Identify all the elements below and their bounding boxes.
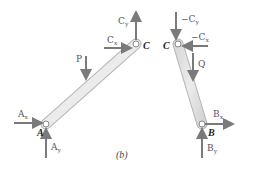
point-b-label: B — [207, 127, 215, 138]
label-cy: Cy — [118, 16, 129, 28]
label-bx: Bx — [213, 109, 224, 120]
point-a-label: A — [36, 127, 44, 138]
member-cb — [175, 41, 205, 127]
label-q: Q — [198, 59, 205, 69]
diagram-canvas: Ax Ay Cx Cy P A C −Cy −Cx Q Bx By C B (b… — [0, 0, 264, 177]
label-by: By — [207, 143, 218, 155]
label-neg-cx: −Cx — [191, 32, 209, 43]
label-ax: Ax — [17, 109, 29, 120]
pin-b-icon — [199, 121, 205, 127]
figure-caption: (b) — [116, 149, 128, 161]
forces-ac — [14, 12, 136, 158]
member-ac — [43, 41, 139, 127]
point-c-right-label: C — [163, 40, 170, 51]
label-cx: Cx — [107, 35, 118, 46]
pin-c-right-icon — [175, 41, 181, 47]
label-neg-cy: −Cy — [181, 14, 199, 26]
label-p: P — [76, 54, 82, 64]
free-body-diagram: Ax Ay Cx Cy P A C −Cy −Cx Q Bx By C B (b… — [0, 0, 264, 177]
label-ay: Ay — [50, 142, 62, 154]
point-c-left-label: C — [143, 40, 150, 51]
pin-c-left-icon — [133, 41, 139, 47]
pin-a-icon — [43, 121, 49, 127]
